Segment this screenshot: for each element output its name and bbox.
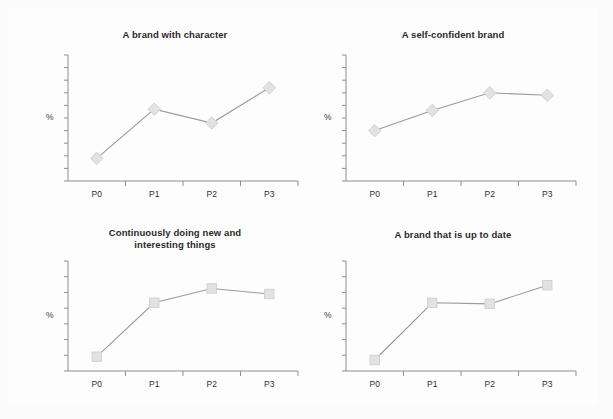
data-point-marker [426, 104, 438, 116]
y-axis-label: % [324, 310, 332, 320]
data-series-line [97, 88, 270, 159]
data-point-marker [484, 87, 496, 99]
x-axis-tick-label: P0 [80, 189, 114, 199]
x-axis-tick-label: P3 [252, 379, 286, 389]
x-axis-tick-label: P1 [415, 189, 449, 199]
chart-a-self-confident-brand: A self-confident brand % P0P1P2P3 [308, 23, 598, 218]
data-point-marker [265, 289, 274, 298]
data-point-marker [263, 82, 275, 94]
x-axis-tick-label: P2 [195, 189, 229, 199]
charts-panel: A brand with character % P0P1P2P3 A self… [8, 7, 598, 405]
x-axis-tick-label: P0 [80, 379, 114, 389]
x-axis-tick-label: P0 [358, 379, 392, 389]
x-axis-tick-label: P2 [473, 189, 507, 199]
data-point-marker [150, 298, 159, 307]
y-axis-label: % [324, 112, 332, 122]
x-axis-tick-label: P1 [137, 379, 171, 389]
y-axis-label: % [46, 310, 54, 320]
data-series-line [97, 289, 270, 357]
x-axis-tick-label: P2 [195, 379, 229, 389]
data-series-line [375, 93, 548, 131]
y-axis-label: % [46, 112, 54, 122]
chart-a-brand-with-character: A brand with character % P0P1P2P3 [30, 23, 320, 218]
data-point-marker [207, 284, 216, 293]
data-series-line [375, 285, 548, 360]
x-axis-tick-label: P3 [252, 189, 286, 199]
data-point-marker [92, 352, 101, 361]
data-point-marker [428, 298, 437, 307]
data-point-marker [543, 281, 552, 290]
x-axis-tick-label: P3 [530, 379, 564, 389]
page-root: A brand with character % P0P1P2P3 A self… [0, 0, 613, 419]
chart-a-brand-that-is-up-to-date: A brand that is up to date % P0P1P2P3 [308, 223, 598, 418]
x-axis-tick-label: P3 [530, 189, 564, 199]
data-point-marker [369, 124, 381, 136]
x-axis-tick-label: P1 [137, 189, 171, 199]
data-point-marker [485, 299, 494, 308]
chart-continuously-doing-new-and-interesting-things: Continuously doing new and interesting t… [30, 223, 320, 418]
x-axis-tick-label: P0 [358, 189, 392, 199]
data-point-marker [206, 117, 218, 129]
x-axis-tick-label: P1 [415, 379, 449, 389]
data-point-marker [370, 355, 379, 364]
data-point-marker [541, 89, 553, 101]
x-axis-tick-label: P2 [473, 379, 507, 389]
